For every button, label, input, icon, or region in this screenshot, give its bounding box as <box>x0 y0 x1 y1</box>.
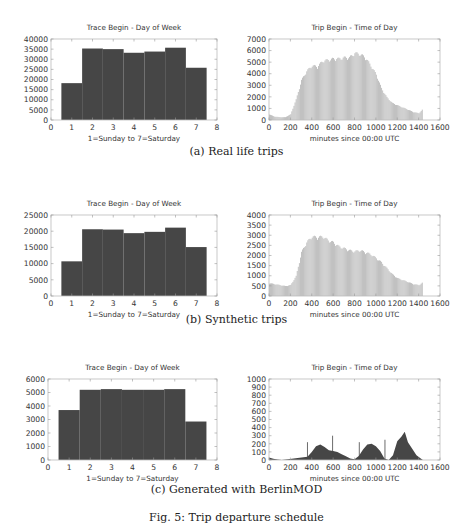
y-tick-label: 2000 <box>247 93 266 102</box>
x-tick-label: 4 <box>132 123 137 132</box>
x-tick-label: 2 <box>90 123 95 132</box>
x-tick-label: 1200 <box>388 463 407 472</box>
bar <box>285 286 286 296</box>
chart-svg: Trip Begin - Time of Day0100200300400500… <box>235 335 473 475</box>
bar <box>333 58 334 120</box>
bar <box>274 284 275 296</box>
bar <box>357 250 358 296</box>
bar <box>372 69 373 120</box>
x-tick-label: 0 <box>267 123 272 132</box>
bar <box>355 251 356 296</box>
bar <box>406 109 407 120</box>
chart-title: Trace Begin - Day of Week <box>84 363 180 372</box>
bar <box>283 286 284 296</box>
x-tick-label: 200 <box>283 123 298 132</box>
bar <box>296 99 297 120</box>
chart-title: Trip Begin - Time of Day <box>310 363 398 372</box>
bar <box>350 250 351 296</box>
bar <box>362 54 363 120</box>
bar <box>286 286 287 296</box>
bar <box>304 76 305 120</box>
y-tick-label: 15000 <box>24 85 48 94</box>
y-tick-label: 25000 <box>24 211 48 220</box>
bar <box>328 60 329 120</box>
bar <box>399 279 400 296</box>
bar <box>330 242 331 296</box>
bar <box>366 253 367 296</box>
x-tick-label: 1400 <box>409 463 428 472</box>
bar <box>144 52 165 120</box>
bar <box>80 390 101 460</box>
y-tick-label: 100 <box>252 448 267 457</box>
bar <box>283 117 284 120</box>
chart-svg: Trace Begin - Day of Week050001000015000… <box>0 0 235 125</box>
bar <box>304 247 305 296</box>
bar <box>368 61 369 120</box>
bar <box>349 57 350 120</box>
x-tick-label: 1400 <box>409 123 428 132</box>
y-tick-label: 4000 <box>26 402 45 411</box>
bar <box>276 284 277 296</box>
bar <box>322 238 323 296</box>
bar <box>351 55 352 120</box>
bar <box>377 79 378 120</box>
x-tick-label: 400 <box>305 299 320 308</box>
chart-a-day-of-week: Trace Begin - Day of Week050001000015000… <box>0 0 235 125</box>
x-tick-label: 600 <box>326 463 341 472</box>
bar <box>337 58 338 120</box>
bar <box>399 106 400 120</box>
bar <box>329 62 330 120</box>
bar <box>333 242 334 296</box>
bar <box>416 284 417 296</box>
x-tick-label: 0 <box>267 463 272 472</box>
bar <box>388 269 389 296</box>
bar <box>384 94 385 120</box>
bar <box>344 56 345 120</box>
bar <box>351 250 352 296</box>
y-tick-label: 20000 <box>24 75 48 84</box>
y-tick-label: 6000 <box>247 46 266 55</box>
bar <box>367 60 368 120</box>
bar <box>375 257 376 296</box>
bar <box>353 253 354 296</box>
bar <box>319 64 320 120</box>
bar <box>310 239 311 296</box>
x-tick-label: 5 <box>152 299 157 308</box>
bar <box>398 278 399 296</box>
x-tick-label: 5 <box>151 463 156 472</box>
bar <box>271 115 272 120</box>
bar <box>380 261 381 296</box>
bar <box>391 273 392 296</box>
bar <box>281 117 282 120</box>
caption-a: (a) Real life trips <box>0 145 473 158</box>
y-tick-label: 1000 <box>247 375 266 384</box>
bar <box>395 277 396 296</box>
bar <box>275 117 276 120</box>
chart-title: Trip Begin - Time of Day <box>310 23 398 32</box>
bar <box>336 245 337 296</box>
bar <box>298 92 299 120</box>
chart-svg: Trip Begin - Time of Day0100020003000400… <box>235 0 473 125</box>
bar <box>344 247 345 296</box>
y-tick-label: 600 <box>252 407 267 416</box>
y-tick-label: 5000 <box>26 388 45 397</box>
bar <box>400 107 401 120</box>
bar <box>398 105 399 120</box>
bar <box>336 59 337 120</box>
bar <box>368 253 369 296</box>
bar <box>301 80 302 120</box>
chart-a-time-of-day: Trip Begin - Time of Day0100020003000400… <box>235 0 473 125</box>
bar <box>363 251 364 296</box>
bar <box>369 254 370 296</box>
bar <box>319 236 320 296</box>
y-tick-label: 2000 <box>26 429 45 438</box>
bar <box>316 238 317 296</box>
bar <box>302 249 303 296</box>
y-tick-label: 0 <box>261 456 266 465</box>
x-tick-label: 0 <box>49 123 54 132</box>
y-tick-label: 6000 <box>26 375 45 384</box>
y-tick-label: 35000 <box>24 45 48 54</box>
x-tick-label: 6 <box>173 123 178 132</box>
bar <box>185 422 206 460</box>
y-tick-label: 4000 <box>247 211 266 220</box>
